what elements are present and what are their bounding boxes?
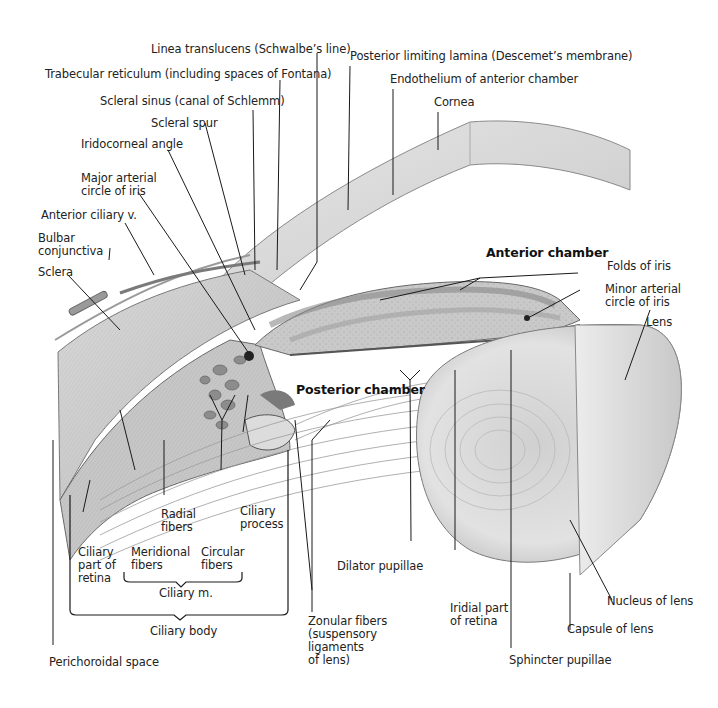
label-anterior-chamber: Anterior chamber bbox=[486, 246, 608, 259]
label-scleral-sinus: Scleral sinus (canal of Schlemm) bbox=[100, 95, 285, 108]
lens-shape bbox=[417, 324, 682, 575]
label-posterior-limiting-lamina: Posterior limiting lamina (Descemet’s me… bbox=[350, 50, 632, 63]
label-radial-fibers-2: fibers bbox=[161, 521, 193, 534]
label-meridional-fibers-2: fibers bbox=[131, 559, 163, 572]
label-capsule-of-lens: Capsule of lens bbox=[567, 623, 653, 636]
brace-ciliary-m bbox=[124, 572, 242, 587]
label-sclera: Sclera bbox=[38, 266, 73, 279]
label-ciliary-process-2: process bbox=[240, 518, 284, 531]
eye-anatomy-diagram: Linea translucens (Schwalbe’s line) Post… bbox=[0, 0, 718, 708]
label-scleral-spur: Scleral spur bbox=[151, 117, 218, 130]
label-ciliary-part-of-retina-3: retina bbox=[78, 572, 111, 585]
label-zonular-fibers-4: of lens) bbox=[308, 654, 350, 667]
label-perichoroidal-space: Perichoroidal space bbox=[49, 656, 159, 669]
label-cornea: Cornea bbox=[434, 96, 474, 109]
label-bulbar-conjunctiva-2: conjunctiva bbox=[38, 245, 103, 258]
label-lens: Lens bbox=[646, 316, 672, 329]
label-minor-arterial-circle-2: circle of iris bbox=[605, 296, 670, 309]
label-dilator-pupillae: Dilator pupillae bbox=[337, 560, 423, 573]
label-posterior-chamber: Posterior chamber bbox=[296, 383, 425, 396]
label-ciliary-m: Ciliary m. bbox=[159, 587, 213, 600]
label-anterior-ciliary-v: Anterior ciliary v. bbox=[41, 209, 137, 222]
label-iridocorneal-angle: Iridocorneal angle bbox=[81, 138, 183, 151]
label-linea-translucens: Linea translucens (Schwalbe’s line) bbox=[151, 43, 351, 56]
label-circular-fibers-2: fibers bbox=[201, 559, 233, 572]
label-nucleus-of-lens: Nucleus of lens bbox=[607, 595, 693, 608]
label-trabecular-reticulum: Trabecular reticulum (including spaces o… bbox=[45, 68, 331, 81]
label-major-arterial-circle-2: circle of iris bbox=[81, 185, 146, 198]
label-iridial-part-of-retina-2: of retina bbox=[450, 615, 497, 628]
label-sphincter-pupillae: Sphincter pupillae bbox=[509, 654, 611, 667]
label-ciliary-body: Ciliary body bbox=[150, 625, 217, 638]
label-endothelium: Endothelium of anterior chamber bbox=[390, 73, 578, 86]
label-folds-of-iris: Folds of iris bbox=[607, 260, 671, 273]
